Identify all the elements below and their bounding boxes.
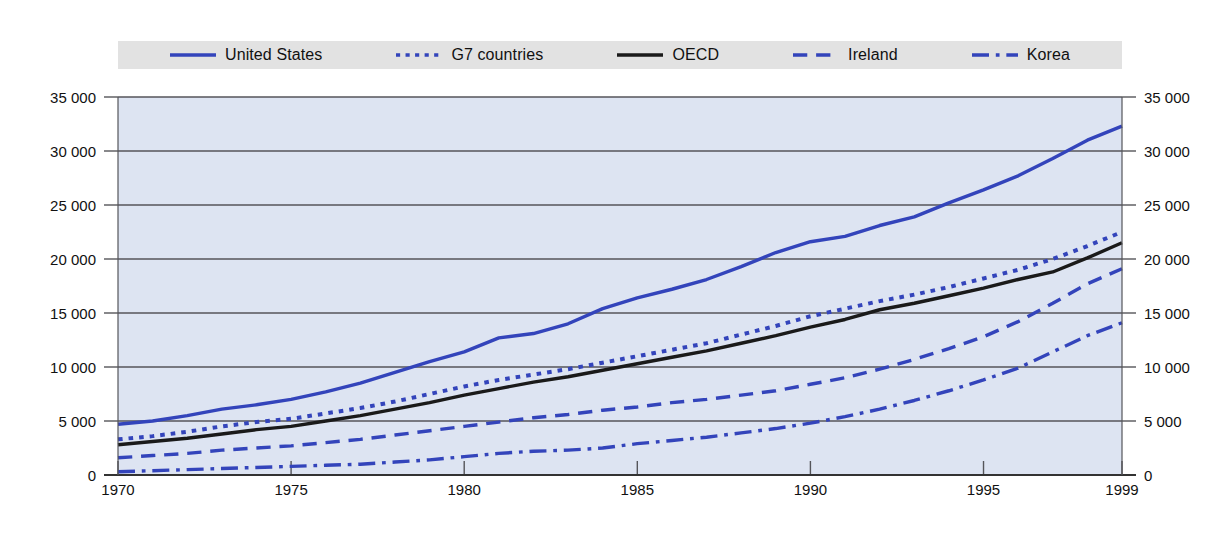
y-axis-label-right-25000: 25 000 [1144, 197, 1190, 214]
y-axis-label-right-5000: 5 000 [1144, 413, 1182, 430]
y-axis-label-right-0: 0 [1144, 467, 1152, 484]
plot-background-layer [118, 97, 1122, 475]
legend-label-united-states: United States [225, 46, 322, 64]
y-axis-label-left-0: 0 [0, 467, 96, 484]
chart-plot-area [0, 0, 1228, 538]
plot-background [118, 97, 1122, 475]
y-axis-label-left-25000: 25 000 [0, 197, 96, 214]
y-axis-label-left-30000: 30 000 [0, 143, 96, 160]
legend-item-korea[interactable]: Korea [972, 46, 1070, 64]
x-axis-label-1995: 1995 [967, 481, 1000, 498]
x-axis-label-1970: 1970 [101, 481, 134, 498]
chart-figure: United StatesG7 countriesOECDIrelandKore… [0, 0, 1228, 538]
y-axis-label-left-15000: 15 000 [0, 305, 96, 322]
x-axis-label-1985: 1985 [621, 481, 654, 498]
legend-swatch-ireland [793, 49, 839, 61]
y-axis-label-left-10000: 10 000 [0, 359, 96, 376]
x-axis-label-1990: 1990 [794, 481, 827, 498]
legend-swatch-korea [972, 49, 1018, 61]
legend-item-g7-countries[interactable]: G7 countries [396, 46, 543, 64]
x-axis-label-1980: 1980 [448, 481, 481, 498]
legend-label-oecd: OECD [672, 46, 719, 64]
legend-label-korea: Korea [1027, 46, 1070, 64]
legend-label-ireland: Ireland [848, 46, 898, 64]
y-axis-label-left-5000: 5 000 [0, 413, 96, 430]
y-axis-label-right-15000: 15 000 [1144, 305, 1190, 322]
y-axis-label-right-20000: 20 000 [1144, 251, 1190, 268]
legend-item-ireland[interactable]: Ireland [793, 46, 898, 64]
y-axis-label-right-30000: 30 000 [1144, 143, 1190, 160]
legend-swatch-united-states [170, 49, 216, 61]
legend-label-g7-countries: G7 countries [451, 46, 543, 64]
legend-item-united-states[interactable]: United States [170, 46, 322, 64]
x-axis-label-1975: 1975 [274, 481, 307, 498]
y-axis-label-right-35000: 35 000 [1144, 89, 1190, 106]
x-axis-label-1999: 1999 [1105, 481, 1138, 498]
legend-item-oecd[interactable]: OECD [617, 46, 719, 64]
legend-swatch-g7-countries [396, 49, 442, 61]
y-axis-label-left-20000: 20 000 [0, 251, 96, 268]
y-axis-label-right-10000: 10 000 [1144, 359, 1190, 376]
chart-legend: United StatesG7 countriesOECDIrelandKore… [118, 41, 1122, 69]
legend-swatch-oecd [617, 49, 663, 61]
y-axis-label-left-35000: 35 000 [0, 89, 96, 106]
